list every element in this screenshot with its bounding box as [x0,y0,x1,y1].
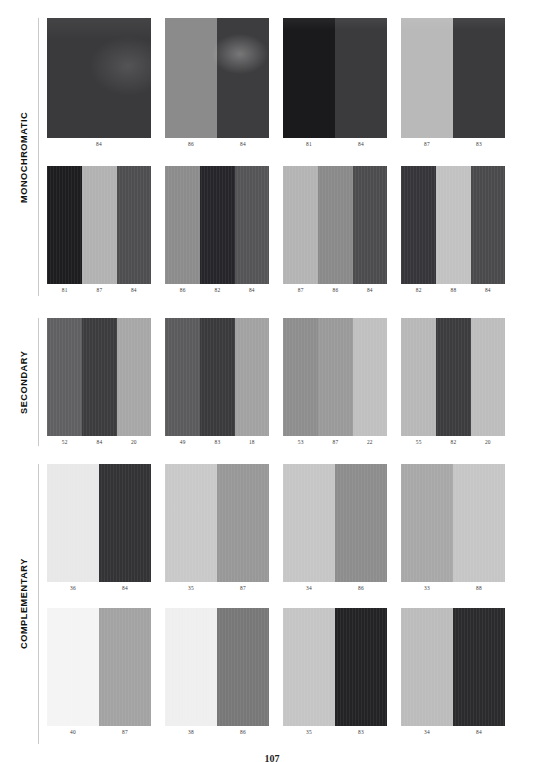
color-band [401,464,453,582]
swatch-value-labels: 3583 [283,728,387,737]
color-band [318,166,352,284]
color-band [401,608,453,726]
swatch-value-labels: 3684 [47,584,151,593]
color-band [335,18,387,138]
swatch-comp-5[interactable]: 4087 [47,608,151,726]
color-band [165,608,217,726]
color-band [283,166,318,284]
swatch-value-labels: 828884 [401,286,505,295]
swatch-value-label: 40 [47,728,99,737]
color-band [436,318,470,436]
swatch-comp-8[interactable]: 3484 [401,608,505,726]
color-band [82,318,116,436]
swatch-comp-2[interactable]: 3587 [165,464,269,582]
swatch-value-label: 86 [335,584,387,593]
swatch-mono-7[interactable]: 878684 [283,166,387,284]
swatch-mono-3[interactable]: 8184 [283,18,387,138]
swatch-value-label: 87 [82,286,116,295]
swatch-value-labels: 3388 [401,584,505,593]
swatch-value-label: 84 [117,286,151,295]
color-bands [283,608,387,726]
swatch-sec-4[interactable]: 558220 [401,318,505,436]
section-divider-monochromatic [38,18,39,296]
swatch-value-label: 34 [283,584,335,593]
swatch-value-labels: 4087 [47,728,151,737]
swatch-sec-1[interactable]: 528420 [47,318,151,436]
color-band [401,166,436,284]
color-band [283,608,335,726]
swatch-mono-5[interactable]: 818784 [47,166,151,284]
section-divider-complementary [38,464,39,744]
swatch-comp-1[interactable]: 3684 [47,464,151,582]
section-divider-secondary [38,318,39,446]
swatch-value-label: 87 [401,140,453,149]
swatch-value-label: 84 [47,140,151,149]
color-bands [47,464,151,582]
swatch-value-label: 87 [318,438,352,447]
swatch-value-labels: 818784 [47,286,151,295]
swatch-value-label: 35 [283,728,335,737]
swatch-mono-6[interactable]: 868284 [165,166,269,284]
page-number: 107 [0,753,544,762]
color-band [47,608,99,726]
swatch-value-label: 35 [165,584,217,593]
swatch-row: 84868481848783 [47,18,505,138]
section-monochromatic: MONOCHROMATIC848684818487838187848682848… [0,18,544,308]
swatch-value-label: 81 [283,140,335,149]
swatch-mono-8[interactable]: 828884 [401,166,505,284]
swatch-comp-4[interactable]: 3388 [401,464,505,582]
color-band [401,318,436,436]
color-bands [165,318,269,436]
color-bands [401,318,505,436]
swatch-value-labels: 8783 [401,140,505,149]
swatch-value-labels: 3587 [165,584,269,593]
swatch-comp-3[interactable]: 3486 [283,464,387,582]
swatch-value-label: 82 [436,438,470,447]
color-band [283,318,318,436]
swatch-comp-7[interactable]: 3583 [283,608,387,726]
color-band [200,318,234,436]
swatch-mono-4[interactable]: 8783 [401,18,505,138]
color-band [47,166,82,284]
color-band [335,464,387,582]
swatch-value-label: 18 [235,438,269,447]
color-band [318,318,352,436]
section-complementary: COMPLEMENTARY368435873486338840873886358… [0,464,544,754]
swatch-comp-6[interactable]: 3886 [165,608,269,726]
color-band [217,18,269,138]
color-band [436,166,470,284]
swatch-value-labels: 558220 [401,438,505,447]
swatch-value-label: 87 [99,728,151,737]
category-label-complementary: COMPLEMENTARY [14,464,34,744]
swatch-value-label: 88 [436,286,470,295]
swatch-value-labels: 8184 [283,140,387,149]
swatch-value-labels: 3886 [165,728,269,737]
color-band [47,318,82,436]
swatch-value-label: 22 [353,438,387,447]
swatch-value-label: 86 [165,140,217,149]
swatch-value-label: 83 [453,140,505,149]
swatch-value-label: 33 [401,584,453,593]
color-band [353,318,387,436]
color-band [453,18,505,138]
swatch-sec-2[interactable]: 498318 [165,318,269,436]
swatch-value-label: 84 [82,438,116,447]
color-band [471,318,505,436]
color-swatch-page: MONOCHROMATIC848684818487838187848682848… [0,0,544,762]
color-band [217,464,269,582]
color-band [200,166,234,284]
swatch-mono-2[interactable]: 8684 [165,18,269,138]
swatch-value-label: 86 [217,728,269,737]
swatch-value-labels: 538722 [283,438,387,447]
swatch-value-label: 84 [353,286,387,295]
color-band [235,318,269,436]
swatch-value-label: 38 [165,728,217,737]
color-band [235,166,269,284]
color-bands [401,18,505,138]
swatch-value-label: 87 [283,286,318,295]
swatch-mono-1[interactable]: 84 [47,18,151,138]
swatch-value-label: 53 [283,438,318,447]
swatch-value-label: 88 [453,584,505,593]
swatch-sec-3[interactable]: 538722 [283,318,387,436]
swatch-value-label: 84 [235,286,269,295]
